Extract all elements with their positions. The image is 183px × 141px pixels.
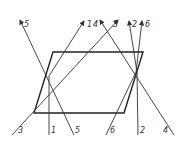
label-bottom-5: 5 — [75, 126, 80, 135]
ray-4 — [100, 20, 174, 135]
label-top-1: 1 — [87, 20, 92, 29]
label-bottom-1: 1 — [51, 126, 56, 135]
label-top-6: 6 — [145, 20, 150, 29]
label-top-2: 2 — [132, 20, 137, 29]
label-bottom-2: 2 — [140, 126, 145, 135]
label-bottom-6: 6 — [110, 126, 115, 135]
label-bottom-3: 3 — [18, 126, 23, 135]
label-top-5: 5 — [24, 20, 29, 29]
label-top-3: 3 — [113, 20, 118, 29]
prism-ray-diagram: 5 1 4 3 2 6 3 1 5 6 2 4 — [0, 0, 183, 141]
label-top-4: 4 — [93, 20, 98, 29]
label-bottom-4: 4 — [163, 126, 168, 135]
ray-1 — [49, 21, 84, 135]
